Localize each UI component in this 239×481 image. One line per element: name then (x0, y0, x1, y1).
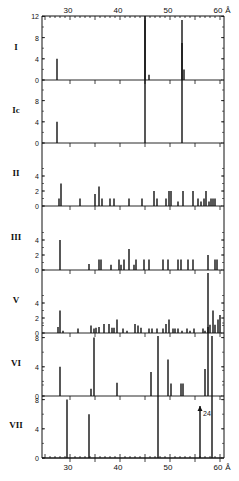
bar-annotation: 24 (203, 410, 211, 417)
panel-label: III (11, 232, 22, 242)
y-tick-label: 4 (35, 237, 39, 244)
y-tick-label: 0 (35, 267, 39, 274)
panel-label: V (13, 295, 20, 305)
y-tick-label: 4 (35, 364, 39, 371)
y-tick-label: 4 (35, 173, 39, 180)
y-tick-label: 2 (35, 252, 39, 259)
panel-label: VII (9, 420, 23, 430)
y-tick-label: 4 (35, 56, 39, 63)
y-tick-label: 8 (35, 98, 39, 105)
x-tick-label-bottom: 50 (164, 463, 173, 472)
x-tick-label-bottom: 60 (214, 463, 223, 472)
y-tick-label: 4 (35, 426, 39, 433)
y-tick-label: 0 (35, 140, 39, 147)
x-unit-label: Å (225, 463, 231, 472)
y-tick-label: 8 (35, 35, 39, 42)
x-tick-label-top: 50 (164, 6, 173, 15)
panel-label: II (12, 168, 20, 178)
y-tick-label: 0 (35, 77, 39, 84)
y-tick-label: 8 (35, 335, 39, 342)
y-tick-label: 4 (35, 119, 39, 126)
y-tick-label: 2 (35, 315, 39, 322)
x-tick-label-top: 30 (64, 6, 73, 15)
panel-label: VI (11, 358, 21, 368)
y-tick-label: 12 (31, 13, 39, 20)
x-tick-label-top: 40 (114, 6, 123, 15)
y-tick-label: 4 (35, 300, 39, 307)
x-tick-label-top: 60 (214, 6, 223, 15)
y-tick-label: 0 (35, 455, 39, 462)
arrow-head-icon (198, 406, 203, 411)
panel-label: Ic (12, 105, 20, 115)
x-tick-label-bottom: 30 (64, 463, 73, 472)
y-tick-label: 2 (35, 188, 39, 195)
panel-label: I (14, 42, 18, 52)
y-tick-label: 8 (35, 397, 39, 404)
x-unit-label: Å (225, 6, 231, 15)
y-tick-label: 0 (35, 203, 39, 210)
stacked-bar-panels: 3030404050506060ÅÅ04812I048Ic024II024III… (0, 0, 239, 481)
spectra-figure: 3030404050506060ÅÅ04812I048Ic024II024III… (0, 0, 239, 481)
x-tick-label-bottom: 40 (114, 463, 123, 472)
